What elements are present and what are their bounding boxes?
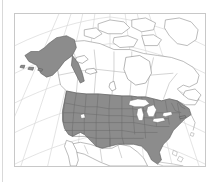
aleutian-islands: [20, 65, 25, 68]
island-bermuda: [190, 132, 194, 136]
aleutian-islands: [28, 67, 34, 70]
great-salt-lake: [80, 114, 85, 119]
arctic-island: [98, 20, 130, 34]
arctic-island: [113, 36, 138, 48]
island-cuba: [158, 162, 184, 166]
coastline-overlays: [191, 115, 195, 131]
island-bahamas: [177, 156, 183, 162]
coastline-detail: [191, 115, 195, 131]
arctic-island: [142, 35, 162, 46]
arctic-island: [132, 18, 156, 32]
figure-root: United States of America Other countries: [0, 0, 223, 182]
map-panel[interactable]: [14, 13, 206, 167]
figure-left-rule: [2, 0, 3, 182]
north-america-map[interactable]: [15, 14, 205, 166]
country-greenland[interactable]: [164, 18, 198, 46]
